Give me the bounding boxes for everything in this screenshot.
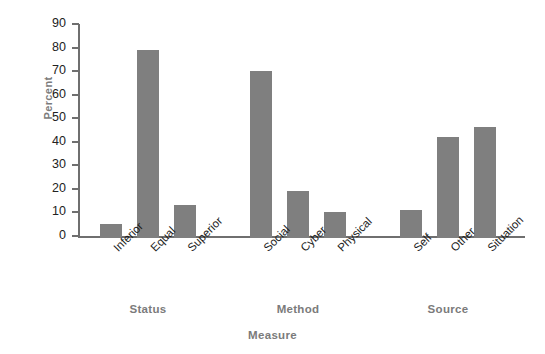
y-axis-tick	[72, 23, 79, 25]
y-axis-tick	[72, 47, 79, 49]
bar-chart: Percent 0102030405060708090 InferiorEqua…	[0, 0, 545, 354]
bar	[137, 50, 159, 238]
bar	[437, 137, 459, 238]
y-axis-tick-label: 0	[20, 229, 66, 242]
y-axis-tick	[72, 94, 79, 96]
bar	[250, 71, 272, 238]
y-axis-tick-label: 10	[20, 205, 66, 218]
x-axis-group-label: Status	[98, 303, 198, 315]
x-axis-group-label: Source	[398, 303, 498, 315]
y-axis-tick	[72, 188, 79, 190]
plot-area	[80, 24, 525, 238]
y-axis-tick	[72, 70, 79, 72]
y-axis-tick-label: 90	[20, 17, 66, 30]
y-axis-tick-label: 40	[20, 135, 66, 148]
y-axis-tick	[72, 141, 79, 143]
x-axis-group-label: Method	[248, 303, 348, 315]
y-axis-tick	[72, 211, 79, 213]
y-axis-tick-label: 80	[20, 41, 66, 54]
y-axis-tick	[72, 117, 79, 119]
y-axis-tick-label: 20	[20, 182, 66, 195]
bar	[324, 212, 346, 238]
y-axis-tick-label: 70	[20, 64, 66, 77]
bar	[400, 210, 422, 238]
y-axis-tick-label: 60	[20, 88, 66, 101]
y-axis-tick-label: 50	[20, 111, 66, 124]
y-axis-tick	[72, 164, 79, 166]
y-axis-tick-label: 30	[20, 158, 66, 171]
bar	[100, 224, 122, 238]
x-axis-title: Measure	[0, 329, 545, 341]
bar	[474, 127, 496, 238]
